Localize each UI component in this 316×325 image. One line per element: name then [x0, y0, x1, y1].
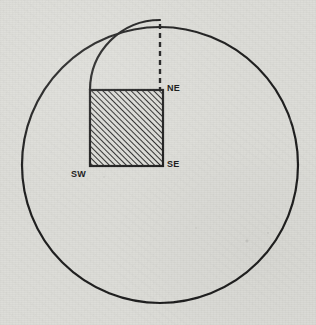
geometry-diagram — [0, 0, 316, 325]
hatched-square-fill — [90, 90, 163, 166]
figure-canvas: NE SE SW — [0, 0, 316, 325]
corner-label-ne: NE — [167, 84, 180, 93]
corner-label-sw: SW — [71, 170, 86, 179]
corner-label-se: SE — [167, 160, 179, 169]
